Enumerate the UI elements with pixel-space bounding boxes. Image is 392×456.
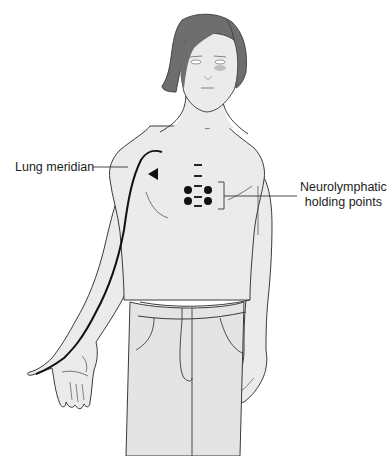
anatomical-figure [0,0,392,456]
lung-meridian-label: Lung meridian [15,160,94,175]
neurolymphatic-label-line2: holding points [300,195,387,210]
torso [109,122,264,300]
jeans [126,300,250,456]
neurolymphatic-label-line1: Neurolymphatic [300,180,387,195]
neurolymphatic-label: Neurolymphatic holding points [300,180,387,210]
head [162,14,246,112]
